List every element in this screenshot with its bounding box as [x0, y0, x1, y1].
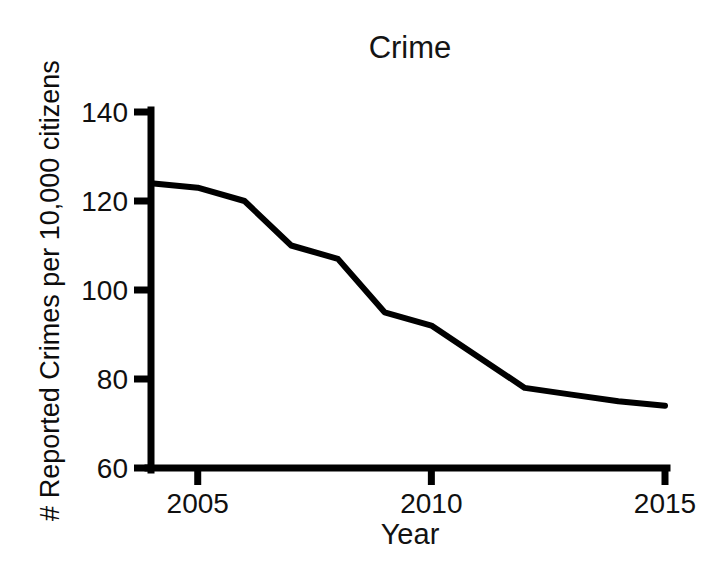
chart-container: Crime # Reported Crimes per 10,000 citiz… [0, 0, 721, 583]
y-tick-label-60: 60 [97, 453, 128, 484]
y-tick-label-140: 140 [81, 97, 128, 128]
x-tick-label-2010: 2010 [400, 488, 462, 519]
y-tick-group: 6080100120140 [81, 97, 151, 484]
data-series-group [151, 183, 665, 406]
plot-area: 6080100120140 200520102015 [0, 0, 721, 583]
axis-lines [148, 110, 667, 470]
data-line-crime [151, 183, 665, 406]
y-tick-label-80: 80 [97, 364, 128, 395]
x-tick-label-2015: 2015 [634, 488, 696, 519]
x-tick-label-2005: 2005 [167, 488, 229, 519]
y-tick-label-120: 120 [81, 186, 128, 217]
x-tick-group: 200520102015 [167, 468, 697, 519]
y-tick-label-100: 100 [81, 275, 128, 306]
